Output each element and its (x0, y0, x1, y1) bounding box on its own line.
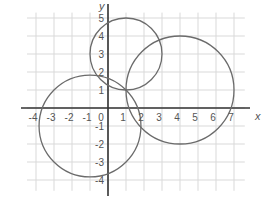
y-tick-label: -1 (95, 121, 104, 132)
x-tick-label: 3 (156, 112, 162, 123)
grid-lines (27, 13, 245, 191)
x-tick-label: 1 (120, 112, 126, 123)
x-tick-label: -1 (83, 112, 92, 123)
y-tick-label: 1 (98, 85, 104, 96)
y-tick-label: 2 (98, 67, 104, 78)
tick-labels: -4-3-2-10123456754321-1-2-3-4 (29, 13, 235, 186)
x-tick-label: 5 (192, 112, 198, 123)
y-tick-label: 4 (98, 31, 104, 42)
x-tick-label: 2 (138, 112, 144, 123)
y-tick-label: 3 (98, 49, 104, 60)
y-axis-label: y (98, 0, 106, 12)
y-tick-label: 5 (98, 13, 104, 24)
x-tick-label: -3 (47, 112, 56, 123)
y-tick-label: -4 (95, 175, 104, 186)
y-tick-label: -3 (95, 157, 104, 168)
x-tick-label: 7 (228, 112, 234, 123)
x-axis-label: x (254, 110, 261, 122)
x-tick-label: 4 (174, 112, 180, 123)
coordinate-plane: -4-3-2-10123456754321-1-2-3-4 x y (0, 0, 277, 201)
circles (39, 18, 234, 177)
x-tick-label: 6 (210, 112, 216, 123)
x-tick-label: -2 (65, 112, 74, 123)
x-tick-label: -4 (29, 112, 38, 123)
y-tick-label: -2 (95, 139, 104, 150)
